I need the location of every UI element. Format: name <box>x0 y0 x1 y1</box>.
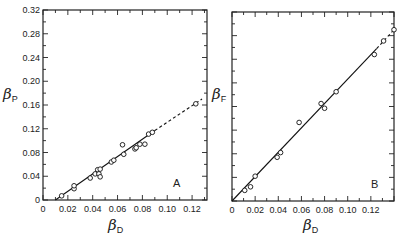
y-tick-label: 0.28 <box>22 29 40 39</box>
y-tick-label: 0.08 <box>22 148 40 158</box>
panel-b-label: B <box>371 178 378 190</box>
data-point <box>143 142 148 147</box>
y-tick-label: 0.12 <box>22 124 40 134</box>
x-tick-label: 0.06 <box>293 205 311 215</box>
data-point <box>248 185 253 190</box>
y-tick-label: 0.20 <box>22 76 40 86</box>
data-point <box>278 150 283 155</box>
data-point <box>242 188 247 193</box>
data-point <box>275 155 280 160</box>
panel-a-frame <box>43 10 207 200</box>
x-tick-label: 0 <box>40 204 45 214</box>
panel-b-data-points <box>242 27 396 192</box>
x-tick-label: 0.04 <box>270 205 288 215</box>
data-point <box>98 167 103 172</box>
data-point <box>297 120 302 125</box>
data-point <box>72 183 77 188</box>
figure-canvas: 00.020.040.060.080.100.1200.040.080.120.… <box>0 0 401 237</box>
data-point <box>381 39 386 44</box>
x-tick-label: 0.12 <box>183 204 201 214</box>
data-point <box>392 27 397 32</box>
x-tick-label: 0.06 <box>109 204 127 214</box>
data-point <box>150 130 155 135</box>
data-point <box>319 101 324 106</box>
panel-a-x-axis-title: βD <box>107 216 124 235</box>
data-point <box>112 158 117 163</box>
data-point <box>334 89 339 94</box>
y-tick-label: 0.04 <box>22 171 40 181</box>
x-tick-label: 0.08 <box>134 204 152 214</box>
x-tick-label: 0.10 <box>158 204 176 214</box>
x-tick-label: 0.04 <box>84 204 102 214</box>
data-point <box>121 152 126 157</box>
y-tick-label: 0 <box>35 195 40 205</box>
panel-b-ticks: 00.020.040.060.080.100.12 <box>229 12 394 215</box>
x-tick-label: 0.10 <box>339 205 357 215</box>
x-tick-label: 0.12 <box>362 205 380 215</box>
x-tick-label: 0.02 <box>246 205 264 215</box>
panel-b-y-axis-title: βF <box>211 85 227 104</box>
panel-b: 00.020.040.060.080.100.12 B βD βF <box>211 12 396 235</box>
y-tick-label: 0.32 <box>22 5 40 15</box>
panel-a-y-axis-title: βP <box>2 85 18 104</box>
data-point <box>98 175 103 180</box>
data-point <box>120 142 125 147</box>
data-point <box>322 106 327 111</box>
data-point <box>138 142 143 147</box>
x-tick-label: 0 <box>229 205 234 215</box>
panel-a-label: A <box>173 177 181 189</box>
x-tick-label: 0.08 <box>316 205 334 215</box>
data-point <box>194 102 199 107</box>
panel-a: 00.020.040.060.080.100.1200.040.080.120.… <box>2 5 207 235</box>
data-point <box>134 145 139 150</box>
y-tick-label: 0.24 <box>22 53 40 63</box>
data-point <box>253 174 258 179</box>
panel-b-frame <box>232 12 394 201</box>
data-point <box>59 194 64 199</box>
data-point <box>88 176 93 181</box>
x-tick-label: 0.02 <box>59 204 77 214</box>
panel-b-x-axis-title: βD <box>302 216 319 235</box>
data-point <box>372 52 377 57</box>
y-tick-label: 0.16 <box>22 100 40 110</box>
fit-line-solid <box>55 131 154 200</box>
